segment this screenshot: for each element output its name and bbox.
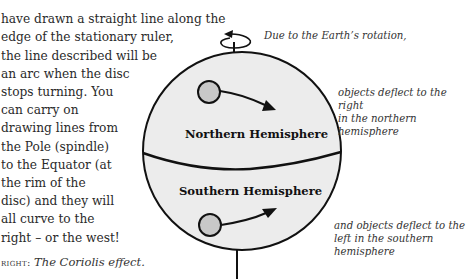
southern-hemisphere-label: Southern Hemisphere [179,184,322,198]
rotation-arrow-icon [221,30,251,48]
caption-title: The Coriolis effect. [34,255,145,269]
caption-lead: right: [1,257,31,268]
northern-object [198,81,220,103]
rotation-note: Due to the Earth’s rotation, [264,29,407,42]
southern-deflection-note: and objects deflect to the left in the s… [334,219,465,258]
figure-caption: right: The Coriolis effect. [1,255,145,269]
southern-object [199,214,221,236]
northern-hemisphere-label: Northern Hemisphere [185,127,328,141]
northern-deflection-note: objects deflect to the right in the nort… [338,86,472,138]
